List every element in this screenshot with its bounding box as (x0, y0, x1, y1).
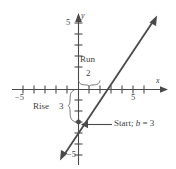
start-annotation-variable: b (136, 118, 141, 128)
y-tick-label-5: 5 (66, 18, 70, 27)
plotted-line (60, 16, 157, 161)
graph-figure: −5 5 x 5 −5 y Run 2 Rise 3 Start; b = 3 (0, 0, 176, 169)
coordinate-plane-svg (0, 0, 176, 169)
rise-value-label: 3 (59, 102, 64, 111)
start-annotation: Start; b = 3 (114, 119, 154, 128)
start-point-marker (76, 120, 81, 125)
run-value-label: 2 (86, 69, 91, 78)
x-axis-label: x (156, 77, 160, 85)
y-tick-label-negative-5: −5 (67, 150, 76, 159)
y-axis-label: y (81, 12, 85, 20)
run-label: Run (80, 55, 95, 64)
rise-label: Rise (33, 102, 49, 111)
start-annotation-equals: = (143, 118, 148, 128)
start-annotation-value: 3 (150, 118, 155, 128)
rise-brace (68, 90, 74, 122)
x-tick-label-negative-5: −5 (15, 93, 24, 102)
x-tick-label-5: 5 (131, 93, 135, 102)
x-axis (12, 86, 168, 94)
start-annotation-prefix: Start; (114, 118, 134, 128)
